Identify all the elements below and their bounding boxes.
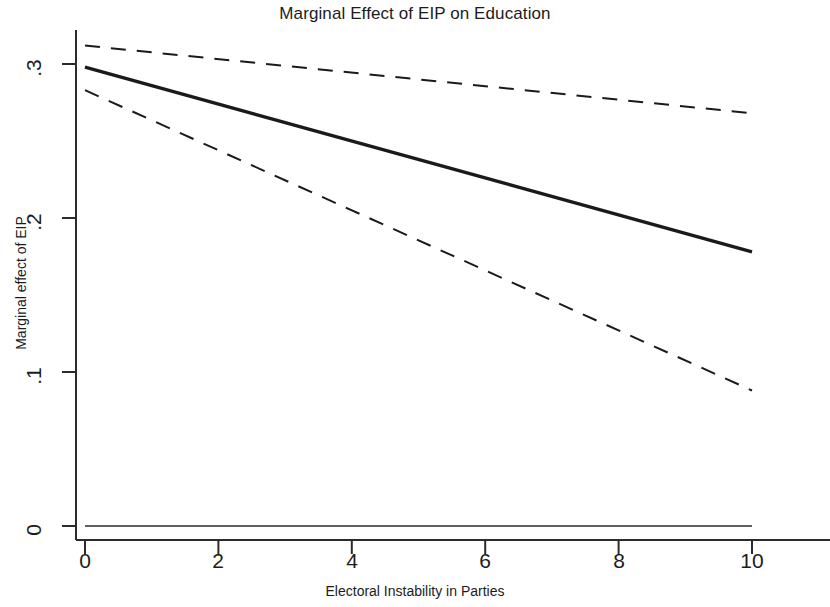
y-tick-marks	[62, 64, 76, 526]
series-line-0	[85, 67, 752, 252]
plot-area	[0, 0, 830, 607]
series-line-1	[85, 46, 752, 114]
data-series-layer	[85, 46, 752, 526]
series-line-2	[85, 90, 752, 390]
chart-figure: Marginal Effect of EIP on Education Marg…	[0, 0, 830, 607]
x-tick-marks	[85, 540, 752, 554]
